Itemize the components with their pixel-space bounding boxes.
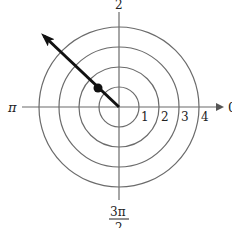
angle-label-three-half-pi-denominator: 2 — [115, 221, 123, 228]
plotted-point — [94, 84, 103, 93]
angle-label-half-pi: 2 — [115, 0, 123, 12]
angle-label-pi: π — [7, 100, 17, 115]
radius-label-4: 4 — [201, 110, 209, 124]
radius-label-3: 3 — [181, 110, 189, 124]
angle-label-zero: 0 — [228, 100, 232, 115]
ray-three-quarter-pi — [44, 36, 119, 107]
angle-label-three-half-pi-numerator: 3π — [110, 205, 126, 219]
radius-label-1: 1 — [141, 110, 149, 124]
polar-diagram: 1 2 3 4 0 2 π 3π 2 — [0, 0, 232, 228]
radius-label-2: 2 — [161, 110, 169, 124]
